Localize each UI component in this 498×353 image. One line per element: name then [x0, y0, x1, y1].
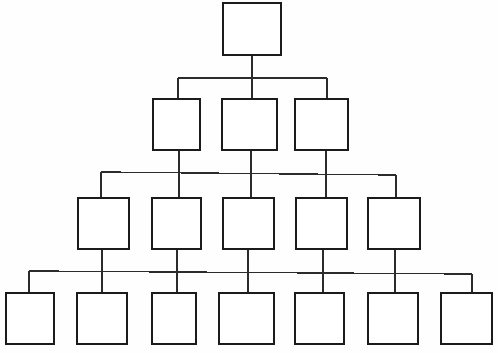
node-box[interactable]: [295, 99, 348, 150]
level-group-3: [78, 198, 420, 249]
level-group-1: [223, 3, 281, 55]
node-box[interactable]: [441, 293, 492, 344]
diagram-canvas: [0, 0, 498, 353]
node-box[interactable]: [368, 293, 418, 344]
hierarchy-diagram: [0, 0, 498, 353]
level-group-2: [153, 99, 348, 150]
node-box[interactable]: [222, 99, 277, 150]
node-box[interactable]: [6, 293, 54, 344]
connector-line-horizontal: [101, 172, 396, 175]
node-box[interactable]: [368, 198, 420, 249]
node-box[interactable]: [296, 198, 347, 249]
connector-line-horizontal: [29, 271, 472, 274]
node-box[interactable]: [153, 99, 200, 150]
node-box[interactable]: [77, 293, 127, 344]
node-box[interactable]: [295, 293, 344, 344]
node-box[interactable]: [219, 293, 274, 344]
connector-layer: [29, 55, 472, 293]
level-group-4: [6, 293, 492, 344]
node-box[interactable]: [152, 293, 196, 344]
node-box[interactable]: [223, 3, 281, 55]
node-box[interactable]: [78, 198, 129, 249]
node-box[interactable]: [152, 198, 201, 249]
node-box[interactable]: [223, 198, 274, 249]
